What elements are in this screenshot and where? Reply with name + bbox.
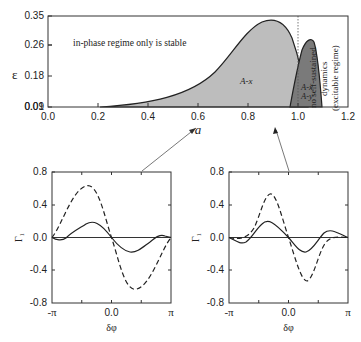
x-tick: π xyxy=(168,306,174,318)
bottom-right-panel: 0.8 0.4 0.0 -0.4 -0.8 -π 0.0 π δφ Γ1 xyxy=(190,166,351,333)
region-label-a-x: A-x xyxy=(239,76,253,86)
x-tick: 0.0 xyxy=(41,111,55,122)
solid-curve xyxy=(229,221,348,252)
y-tick: -0.8 xyxy=(30,297,48,308)
excitable-note-line3: (excitable regime) xyxy=(330,45,340,111)
y-tick: 0.0 xyxy=(33,232,47,243)
y-tick: 0.18 xyxy=(25,70,45,81)
y-axis-label: Γ1 xyxy=(13,233,25,242)
x-tick: 0.0 xyxy=(105,307,119,318)
x-tick: 0.2 xyxy=(91,111,105,122)
y-tick: 0.8 xyxy=(33,166,47,177)
stable-regime-note: in-phase regime only is stable xyxy=(73,38,186,48)
x-tick: 0.4 xyxy=(141,111,155,122)
y-tick: -0.4 xyxy=(207,264,225,275)
top-panel: 0.35 0.26 0.18 0.09 0.01 ε 0.0 0.2 0.4 0… xyxy=(12,10,355,171)
y-tick: 0.4 xyxy=(33,199,47,210)
y-axis-label: ε xyxy=(12,67,18,82)
pointer-arrow-right xyxy=(276,130,289,171)
x-tick: 0.0 xyxy=(282,307,296,318)
x-tick: 1.0 xyxy=(291,111,305,122)
y-axis-label: Γ1 xyxy=(190,233,202,242)
x-tick: 0.6 xyxy=(191,111,205,122)
pointer-arrow-left xyxy=(142,128,196,171)
x-tick: -π xyxy=(224,306,234,318)
y-tick: -0.8 xyxy=(207,297,225,308)
x-axis-label: δφ xyxy=(106,322,117,333)
y-tick: 0.8 xyxy=(210,166,224,177)
x-tick: 0.8 xyxy=(241,111,255,122)
x-axis-label: δφ xyxy=(283,322,294,333)
y-tick: -0.4 xyxy=(30,264,48,275)
bottom-left-panel: 0.8 0.4 0.0 -0.4 -0.8 -π 0.0 π δφ Γ1 xyxy=(13,166,174,333)
excitable-note-line2: dynamics xyxy=(319,61,329,96)
excitable-note-line1: no self-sustained xyxy=(308,47,318,108)
x-tick: -π xyxy=(47,306,57,318)
y-tick: 0.0 xyxy=(210,232,224,243)
x-tick: π xyxy=(345,306,351,318)
x-axis-label: a xyxy=(195,122,202,137)
region-a-x xyxy=(100,20,308,107)
x-tick: 1.2 xyxy=(341,111,355,122)
y-tick: 0.26 xyxy=(25,39,45,50)
figure: 0.35 0.26 0.18 0.09 0.01 ε 0.0 0.2 0.4 0… xyxy=(0,0,361,342)
y-tick: 0.4 xyxy=(210,199,224,210)
y-tick: 0.35 xyxy=(25,10,45,21)
